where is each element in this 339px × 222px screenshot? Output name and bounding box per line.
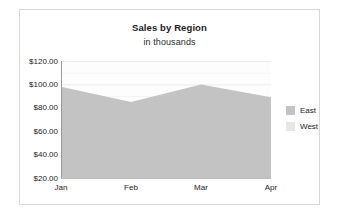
y-axis-tick-labels: $20.00$40.00$60.00$80.00$100.00$120.00 (17, 61, 58, 178)
legend-label: West (300, 122, 318, 131)
area-series-east (61, 84, 271, 178)
y-axis-tick-label: $20.00 (34, 174, 58, 183)
plot-area (61, 61, 271, 178)
y-axis-tick-label: $120.00 (29, 57, 58, 66)
x-axis-tick-label: Mar (181, 183, 221, 192)
x-axis-tick-label: Jan (41, 183, 81, 192)
legend-item-east[interactable]: East (286, 103, 339, 117)
legend-label: East (300, 106, 316, 115)
plot-wrap: $20.00$40.00$60.00$80.00$100.00$120.00 J… (61, 61, 271, 178)
legend-swatch-icon (286, 122, 295, 131)
chart-frame: Sales by Region in thousands $20.00$40.0… (19, 9, 320, 205)
y-axis-tick-label: $80.00 (34, 103, 58, 112)
chart-legend: EastWest (286, 103, 339, 135)
y-axis-line (61, 61, 62, 179)
legend-item-west[interactable]: West (286, 119, 339, 133)
area-chart-svg (61, 61, 271, 179)
x-axis-tick-labels: JanFebMarApr (61, 179, 271, 193)
y-axis-tick-label: $100.00 (29, 80, 58, 89)
y-axis-tick-label: $40.00 (34, 150, 58, 159)
y-axis-tick-label: $60.00 (34, 127, 58, 136)
chart-subtitle: in thousands (20, 37, 319, 47)
chart-title: Sales by Region (20, 22, 319, 33)
legend-swatch-icon (286, 106, 295, 115)
x-axis-tick-label: Feb (111, 183, 151, 192)
x-axis-tick-label: Apr (251, 183, 291, 192)
